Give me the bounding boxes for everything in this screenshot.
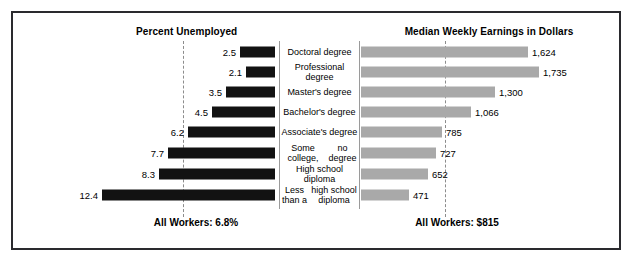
value-label-unemployment: 3.5 [209, 87, 222, 98]
value-label-earnings: 727 [440, 148, 456, 159]
chart-row: 2.5Doctoral degree1,624 [13, 42, 619, 62]
bar-unemployment [240, 47, 275, 58]
value-label-unemployment: 2.1 [229, 67, 242, 78]
category-label: Associate's degree [280, 122, 359, 142]
value-label-earnings: 785 [446, 127, 462, 138]
value-label-unemployment: 6.2 [171, 127, 184, 138]
category-label: Less than ahigh school diploma [280, 184, 359, 206]
value-label-unemployment: 4.5 [195, 107, 208, 118]
value-label-earnings: 1,300 [499, 87, 523, 98]
bar-earnings [361, 190, 409, 201]
left-panel-footer: All Workers: 6.8% [154, 217, 238, 228]
chart-row: 2.1Professional degree1,735 [13, 62, 619, 82]
chart-row: 4.5Bachelor's degree1,066 [13, 102, 619, 122]
chart-figure: Percent Unemployed Median Weekly Earning… [11, 11, 621, 250]
bar-unemployment [188, 127, 275, 138]
bar-earnings [361, 67, 539, 78]
value-label-earnings: 471 [413, 190, 429, 201]
chart-row: 12.4Less than ahigh school diploma471 [13, 184, 619, 206]
bar-earnings [361, 87, 495, 98]
category-label: Some college,no degree [280, 142, 359, 164]
bar-earnings [361, 148, 436, 159]
bar-earnings [361, 127, 442, 138]
bar-unemployment [168, 148, 275, 159]
bar-earnings [361, 107, 471, 118]
value-label-unemployment: 7.7 [151, 148, 164, 159]
category-label: Bachelor's degree [280, 102, 359, 122]
bar-earnings [361, 47, 528, 58]
value-label-unemployment: 8.3 [142, 169, 155, 180]
category-label: Master's degree [280, 82, 359, 102]
value-label-earnings: 1,066 [475, 107, 499, 118]
bar-earnings [361, 169, 428, 180]
chart-row: 3.5Master's degree1,300 [13, 82, 619, 102]
plot-area: 2.5Doctoral degree1,6242.1Professional d… [13, 13, 619, 248]
bar-unemployment [226, 87, 275, 98]
value-label-earnings: 652 [432, 169, 448, 180]
bar-unemployment [212, 107, 275, 118]
chart-row: 6.2Associate's degree785 [13, 122, 619, 142]
bar-unemployment [246, 67, 275, 78]
bar-unemployment [102, 190, 275, 201]
value-label-unemployment: 2.5 [223, 47, 236, 58]
category-label: Doctoral degree [280, 42, 359, 62]
category-label: High school diploma [280, 164, 359, 184]
bar-unemployment [159, 169, 275, 180]
right-panel-footer: All Workers: $815 [415, 217, 499, 228]
chart-row: 8.3High school diploma652 [13, 164, 619, 184]
value-label-earnings: 1,735 [543, 67, 567, 78]
category-label: Professional degree [280, 62, 359, 82]
chart-row: 7.7Some college,no degree727 [13, 142, 619, 164]
value-label-earnings: 1,624 [532, 47, 556, 58]
value-label-unemployment: 12.4 [80, 190, 99, 201]
